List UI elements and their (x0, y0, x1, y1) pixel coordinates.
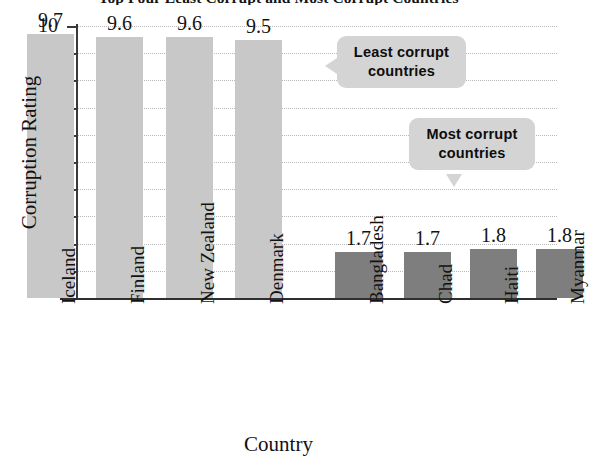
category-label: Iceland (59, 248, 78, 304)
bar-value-label: 9.6 (156, 13, 223, 33)
callout-most-line1: Most corrupt (426, 126, 517, 142)
category-label: Myanmar (568, 230, 587, 304)
bar-value-label: 9.6 (86, 13, 153, 33)
category-label: Bangladesh (367, 215, 386, 304)
callout-most-line2: countries (422, 144, 522, 163)
callout-least-tail-icon (325, 58, 337, 74)
category-label: Chad (436, 264, 455, 304)
callout-most-corrupt: Most corrupt countries (409, 118, 535, 170)
category-label: Denmark (267, 233, 286, 304)
chart-title: Top Four Least Corrupt and Most Corrupt … (0, 0, 557, 5)
callout-least-corrupt: Least corrupt countries (337, 36, 466, 88)
callout-least-line2: countries (350, 62, 453, 81)
callout-most-tail-icon (446, 174, 462, 187)
category-label: Haiti (502, 266, 521, 304)
y-axis-title: Corruption Rating (17, 38, 42, 268)
bar-value-label: 1.8 (460, 225, 527, 245)
callout-least-line1: Least corrupt (354, 44, 449, 60)
category-label: New Zealand (198, 202, 217, 304)
x-axis-title: Country (0, 432, 557, 457)
category-label: Finland (128, 246, 147, 304)
bar-value-label: 9.7 (17, 10, 84, 30)
bar-value-label: 1.7 (394, 228, 461, 248)
bar-value-label: 9.5 (225, 16, 292, 36)
